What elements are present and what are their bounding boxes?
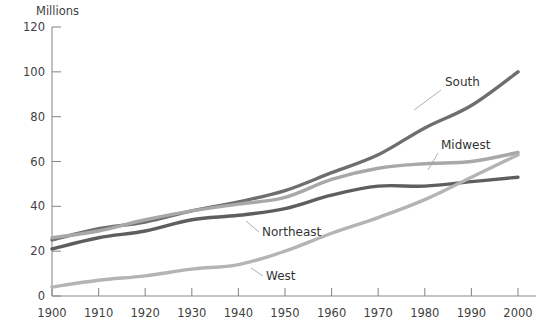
x-tick-label: 1940 bbox=[224, 306, 253, 320]
chart-svg: Millions 020406080100120 190019101920193… bbox=[0, 0, 539, 333]
y-tick-label: 100 bbox=[23, 65, 45, 79]
leader-line-west bbox=[251, 268, 263, 276]
population-line-chart: Millions 020406080100120 190019101920193… bbox=[0, 0, 539, 333]
y-tick-label: 120 bbox=[23, 20, 45, 34]
x-tick-label: 1970 bbox=[364, 306, 393, 320]
series-label-south: South bbox=[445, 75, 480, 89]
x-tick-label: 1900 bbox=[37, 306, 66, 320]
x-tick-label: 2000 bbox=[503, 306, 532, 320]
y-axis-title: Millions bbox=[36, 4, 79, 18]
x-tick-label: 1930 bbox=[177, 306, 206, 320]
series-lines bbox=[52, 72, 518, 287]
x-tick-label: 1920 bbox=[131, 306, 160, 320]
x-tick-label: 1950 bbox=[270, 306, 299, 320]
x-tick-label: 1980 bbox=[410, 306, 439, 320]
series-label-northeast: Northeast bbox=[262, 225, 322, 239]
y-tick-label: 40 bbox=[30, 199, 45, 213]
y-tick-label: 20 bbox=[30, 244, 45, 258]
leader-line-south bbox=[414, 90, 441, 110]
series-line-south bbox=[52, 72, 518, 240]
x-axis-ticks: 1900191019201930194019501960197019801990… bbox=[37, 288, 532, 320]
y-tick-label: 60 bbox=[30, 155, 45, 169]
series-label-midwest: Midwest bbox=[441, 138, 491, 152]
y-tick-label: 0 bbox=[38, 289, 45, 303]
series-line-west bbox=[52, 155, 518, 287]
x-tick-label: 1910 bbox=[84, 306, 113, 320]
leader-line-northeast bbox=[246, 221, 259, 232]
x-tick-label: 1960 bbox=[317, 306, 346, 320]
y-axis-ticks: 020406080100120 bbox=[23, 20, 61, 303]
series-label-west: West bbox=[266, 269, 296, 283]
y-tick-label: 80 bbox=[30, 110, 45, 124]
x-tick-label: 1990 bbox=[457, 306, 486, 320]
